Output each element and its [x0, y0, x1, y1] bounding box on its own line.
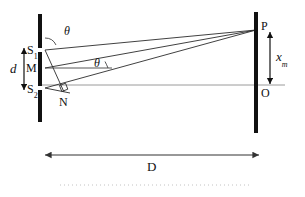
label-fringe-position-xm: xm [276, 50, 288, 67]
label-angle-theta-mid: θ [94, 57, 100, 69]
ray-s2-stub [45, 88, 70, 93]
angle-arc-mid [105, 62, 108, 69]
label-midpoint-m: M [26, 62, 37, 74]
ray-s2-to-p [45, 30, 256, 88]
label-slit-separation-d: d [10, 62, 17, 75]
ray-s1-to-p [45, 30, 256, 50]
label-point-o: O [261, 87, 270, 99]
label-point-n: N [59, 96, 68, 108]
angle-arc-top [45, 38, 56, 45]
ray-m-to-p [45, 30, 256, 68]
label-angle-theta-top: θ [64, 25, 70, 37]
label-screen-distance-D: D [147, 160, 156, 173]
label-slit-s2: S2 [27, 83, 38, 98]
double-slit-diagram: S1 M S2 d N θ θ P O xm D [0, 0, 305, 197]
label-point-p: P [261, 20, 268, 32]
label-slit-s1: S1 [27, 44, 38, 59]
